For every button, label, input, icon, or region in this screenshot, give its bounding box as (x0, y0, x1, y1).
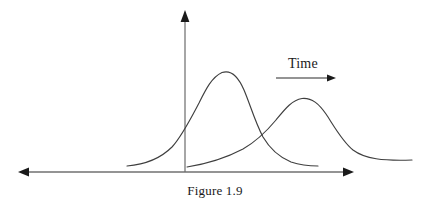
x-axis-right-arrowhead (343, 168, 354, 177)
second-pulse-curve (187, 98, 412, 167)
time-arrow-head (327, 75, 336, 82)
y-axis-top-arrowhead (181, 10, 190, 22)
signal-pulse-diagram (0, 0, 430, 206)
first-pulse-curve (127, 72, 318, 166)
x-axis-left-arrowhead (18, 168, 29, 177)
figure-container: Time Figure 1.9 (0, 0, 430, 206)
time-direction-label: Time (288, 57, 318, 71)
figure-caption: Figure 1.9 (0, 184, 430, 197)
